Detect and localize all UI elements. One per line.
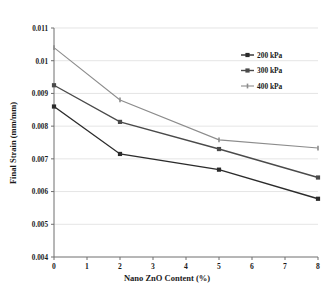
x-axis-tick-labels: 012345678	[52, 262, 320, 271]
data-point-marker	[52, 104, 56, 108]
legend-label: 400 kPa	[257, 82, 283, 91]
y-tick-label: 0.008	[32, 123, 49, 131]
x-tick-label: 0	[52, 262, 56, 271]
x-axis-title: Nano ZnO Content (%)	[124, 273, 210, 283]
data-point-marker	[52, 83, 56, 87]
line-chart: 0.0040.0050.0060.0070.0080.0090.010.011 …	[0, 0, 334, 299]
data-point-marker	[118, 152, 122, 156]
legend-label: 200 kPa	[257, 51, 283, 60]
x-tick-label: 4	[184, 262, 188, 271]
x-tick-label: 1	[85, 262, 89, 271]
y-tick-label: 0.007	[32, 156, 49, 164]
y-axis-title: Final Strain (mm/mm)	[8, 102, 18, 184]
data-point-marker	[316, 175, 320, 179]
y-axis-tick-labels: 0.0040.0050.0060.0070.0080.0090.010.011	[32, 25, 49, 262]
chart-container: 0.0040.0050.0060.0070.0080.0090.010.011 …	[0, 0, 334, 299]
y-tick-label: 0.009	[32, 90, 49, 98]
y-tick-label: 0.004	[32, 254, 49, 262]
chart-legend: 200 kPa300 kPa400 kPa	[241, 51, 283, 91]
y-tick-label: 0.005	[32, 221, 49, 229]
data-point-marker	[118, 120, 122, 124]
y-tick-label: 0.01	[35, 58, 48, 66]
series-line	[54, 48, 318, 148]
x-tick-label: 6	[250, 262, 254, 271]
data-point-marker	[316, 197, 320, 201]
x-tick-label: 3	[151, 262, 155, 271]
legend-marker	[245, 53, 249, 57]
y-tick-label: 0.006	[32, 188, 49, 196]
series-line	[54, 107, 318, 199]
x-tick-label: 2	[118, 262, 122, 271]
data-point-marker	[217, 147, 221, 151]
x-tick-label: 7	[283, 262, 287, 271]
x-tick-label: 8	[316, 262, 320, 271]
legend-marker	[245, 68, 249, 72]
axis-lines	[54, 28, 318, 257]
y-tick-label: 0.011	[32, 25, 48, 33]
legend-label: 300 kPa	[257, 66, 283, 75]
x-tick-label: 5	[217, 262, 221, 271]
data-point-marker	[217, 168, 221, 172]
series-line	[54, 85, 318, 177]
